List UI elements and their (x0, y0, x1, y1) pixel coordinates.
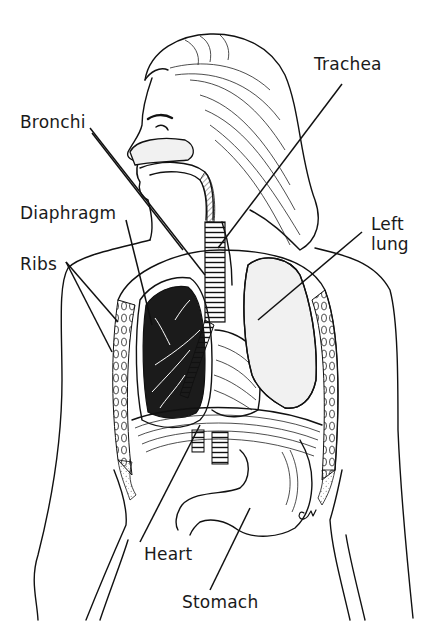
anatomy-illustration (0, 0, 440, 640)
leader-trachea (218, 84, 342, 248)
label-ribs: Ribs (20, 254, 57, 274)
leader-lines (66, 84, 362, 590)
label-diaphragm: Diaphragm (20, 203, 116, 223)
artist-signature (299, 510, 316, 519)
label-heart: Heart (144, 544, 192, 564)
label-left-lung: Left lung (371, 214, 409, 254)
respiratory-diagram: Trachea Bronchi Diaphragm Left lung Ribs… (0, 0, 440, 640)
vessels (192, 430, 228, 464)
leader-heart (140, 425, 200, 542)
label-stomach: Stomach (182, 592, 258, 612)
label-bronchi: Bronchi (20, 112, 86, 132)
label-trachea: Trachea (314, 54, 382, 74)
face-profile (128, 78, 215, 240)
